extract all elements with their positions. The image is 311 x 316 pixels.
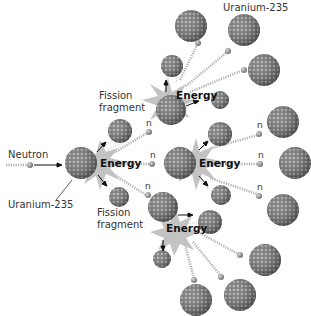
fission-fragment-label-top-1: Fission [99, 90, 132, 101]
energy-label-2: Energy [176, 89, 217, 101]
energy-label-3: Energy [199, 157, 240, 169]
n-label: n [257, 182, 263, 192]
uranium-leader-line [56, 180, 72, 200]
n-label: n [150, 150, 156, 160]
energy-label-1: Energy [100, 157, 141, 169]
energy-label-4: Energy [166, 222, 207, 234]
fission-fragment-label-top-2: fragment [99, 102, 145, 113]
uranium-235-label-left: Uranium-235 [8, 199, 73, 210]
n-label: n [258, 150, 264, 160]
fission-fragment-label-bottom-1: Fission [97, 207, 130, 218]
n-label: n [145, 181, 151, 191]
uranium-235-label-top: Uranium-235 [223, 2, 288, 13]
fission-fragment-label-bottom-2: fragment [97, 219, 143, 230]
neutron-label: Neutron [8, 149, 48, 160]
n-label: n [146, 118, 152, 128]
n-label: n [257, 120, 263, 130]
uranium-235-nucleus [65, 147, 97, 179]
fission-diagram: Neutron Uranium-235 Uranium-235 Fission … [0, 0, 311, 316]
